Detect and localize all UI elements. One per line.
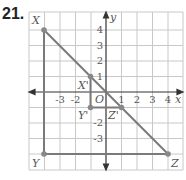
origin-label: O [95, 93, 104, 106]
label-y: Y [32, 157, 41, 170]
point-z-prime [119, 105, 125, 111]
label-x: X [31, 14, 41, 27]
label-y-prime: Y' [78, 109, 88, 122]
x-tick: -3 [55, 94, 65, 105]
label-z: Z [170, 157, 179, 170]
y-tick: 1 [97, 71, 103, 82]
y-tick: 2 [97, 55, 103, 66]
x-tick: 4 [165, 94, 171, 105]
x-axis-left-arrow-icon [29, 90, 35, 95]
point-y [41, 151, 47, 157]
y-axis-label: y [109, 11, 117, 24]
x-tick: -2 [71, 94, 81, 105]
point-z [165, 151, 171, 157]
y-tick: 4 [97, 24, 103, 35]
point-y-prime [88, 105, 94, 111]
x-axis-label: x [175, 93, 182, 106]
y-tick: -3 [93, 133, 103, 144]
x-tick: 2 [134, 94, 140, 105]
y-tick: -2 [93, 117, 103, 128]
y-axis-down-arrow-icon [104, 164, 109, 170]
coordinate-diagram: X Y Z X' Y' Z' y x O -3 -2 1 2 3 4 4 3 2… [0, 0, 186, 180]
y-axis-up-arrow-icon [104, 12, 109, 18]
y-tick: 3 [97, 40, 103, 51]
label-x-prime: X' [77, 79, 89, 92]
x-tick: 3 [149, 94, 155, 105]
label-z-prime: Z' [107, 109, 119, 122]
point-x [41, 27, 47, 33]
x-tick: 1 [118, 94, 124, 105]
